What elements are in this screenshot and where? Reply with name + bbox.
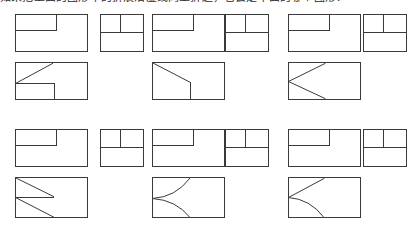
fig-r3c4-small bbox=[225, 129, 269, 167]
fig-r2c2-large bbox=[152, 62, 225, 100]
figure-frame bbox=[16, 130, 88, 167]
fig-r3c5-large bbox=[288, 129, 361, 167]
figure-frame bbox=[289, 130, 361, 167]
fig-r4c2-large bbox=[152, 177, 225, 218]
fig-r1c3-large bbox=[152, 14, 225, 52]
figure-frame bbox=[153, 130, 225, 167]
fig-r2c3-large bbox=[288, 62, 361, 100]
fig-r1c2-small bbox=[100, 14, 144, 52]
figure-frame bbox=[16, 15, 88, 52]
figure-frame bbox=[153, 178, 225, 218]
fig-r2c1-large bbox=[15, 62, 88, 100]
figure-frame bbox=[153, 15, 225, 52]
fig-r4c3-large bbox=[288, 177, 361, 218]
fig-r3c2-small bbox=[100, 129, 144, 167]
fig-r1c4-small bbox=[225, 14, 269, 52]
fig-r1c1-large bbox=[15, 14, 88, 52]
fig-r1c6-small bbox=[363, 14, 407, 52]
figure-frame bbox=[16, 63, 88, 100]
figure-frame bbox=[289, 15, 361, 52]
figure-board bbox=[0, 0, 410, 227]
fig-r3c3-large bbox=[152, 129, 225, 167]
fig-r3c6-small bbox=[363, 129, 407, 167]
figure-frame bbox=[289, 63, 361, 100]
fig-r4c1-large bbox=[15, 177, 88, 218]
fig-r3c1-large bbox=[15, 129, 88, 167]
figure-frame bbox=[289, 178, 361, 218]
fig-r1c5-large bbox=[288, 14, 361, 52]
